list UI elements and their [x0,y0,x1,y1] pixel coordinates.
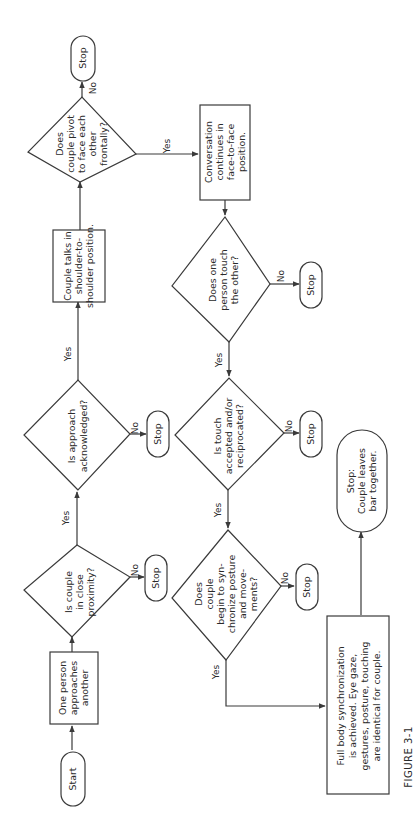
reciprocated-line-1: Is touch [212,417,223,454]
stop1-label: Stop [150,567,161,588]
label-no-reciprocated: No [284,419,294,432]
node-reciprocated: Is touch accepted and/or reciprocated? [175,378,284,490]
node-stop1: Stop [145,555,167,601]
node-stop4: Stop [300,262,322,308]
fullsync-line-2: is achieved. Eye gaze, [347,654,358,759]
stop5-label: Stop [305,423,316,444]
node-pivot: Does couple pivot to face each other fro… [28,97,136,182]
synchronize-line-2: couple [204,578,215,609]
face-line-1: Conversation [203,121,214,183]
fullsync-line-4: are identical for couple. [371,650,382,761]
touch-line-1: Does one [207,258,218,302]
node-stop2: Stop [147,411,169,457]
fullsync-line-3: gestures, posture, touching [359,641,370,770]
shoulder-line-2: shoulder-to- [73,238,84,294]
acknowledged-line-2: acknowledged? [78,400,89,473]
proximity-line-1: Is couple [63,571,74,613]
final-line-3: bar together. [367,450,378,511]
proximity-line-2: in close [74,574,85,610]
synchronize-line-4: chronize posture [226,555,237,634]
flowchart: Yes No Yes No No Yes No Yes No Yes No Ye… [0,0,417,826]
stop2-label: Stop [152,423,163,444]
pivot-line-5: frontally? [98,122,109,166]
label-yes-synchronize: Yes [211,664,221,680]
node-full-sync: Full body synchronization is achieved. E… [327,616,389,794]
fullsync-line-1: Full body synchronization [335,646,346,765]
node-approach: One person approaches another [50,652,98,724]
node-shoulder: Couple talks in shoulder-to- shoulder po… [53,224,105,308]
label-yes-proximity: Yes [61,510,71,526]
synchronize-line-5: and move- [237,569,248,619]
node-start: Start [61,752,85,806]
face-line-4: position. [236,132,247,172]
label-yes-acknowledged: Yes [63,346,73,362]
label-yes-reciprocated: Yes [213,502,223,518]
face-line-2: continues in [214,123,225,180]
shoulder-line-3: shoulder position. [84,224,95,308]
label-no-synchronize: No [280,571,290,584]
final-line-2: Couple leaves [356,448,367,514]
label-yes-pivot: Yes [162,138,172,154]
node-touch: Does one person touch the other? [172,217,270,342]
node-stop6: Stop [296,564,318,610]
label-no-acknowledged: No [130,421,140,434]
node-proximity: Is couple in close proximity? [24,545,130,637]
pivot-line-4: other [87,131,98,156]
reciprocated-line-3: reciprocated? [234,404,245,468]
edge-synchronize-fullsync [226,660,325,706]
figure-caption: FIGURE 3-1 [403,726,414,788]
synchronize-line-6: ments? [248,577,259,611]
node-face: Conversation continues in face-to-face p… [200,105,250,200]
node-acknowledged: Is approach acknowledged? [24,380,130,490]
stop3-label: Stop [77,47,88,68]
stop6-label: Stop [301,576,312,597]
shoulder-line-1: Couple talks in [62,231,73,300]
approach-line-3: another [79,670,90,707]
start-label: Start [67,767,78,790]
touch-line-2: person touch [218,249,229,311]
reciprocated-line-2: accepted and/or [223,398,234,475]
label-no-proximity: No [130,563,140,576]
pivot-line-1: Does [54,132,65,156]
acknowledged-line-1: Is approach [66,409,77,464]
node-stop5: Stop [300,411,322,457]
pivot-line-3: to face each [76,115,87,173]
synchronize-line-1: Does [193,582,204,606]
node-synchronize: Does couple begin to syn- chronize postu… [172,530,281,660]
face-line-3: face-to-face [225,124,236,181]
pivot-line-2: couple pivot [65,115,76,173]
touch-line-3: the other? [229,256,240,304]
stop4-label: Stop [305,274,316,295]
label-yes-touch: Yes [214,352,224,368]
proximity-line-3: proximity? [85,567,96,616]
synchronize-line-3: begin to syn- [215,563,226,624]
final-line-1: Stop: [345,469,356,493]
approach-line-1: One person [57,661,68,715]
label-no-pivot: No [88,81,98,94]
label-no-touch: No [276,269,286,282]
node-stop3: Stop [71,36,95,81]
approach-line-2: approaches [68,661,79,716]
node-final-stop: Stop: Couple leaves bar together. [337,430,387,532]
